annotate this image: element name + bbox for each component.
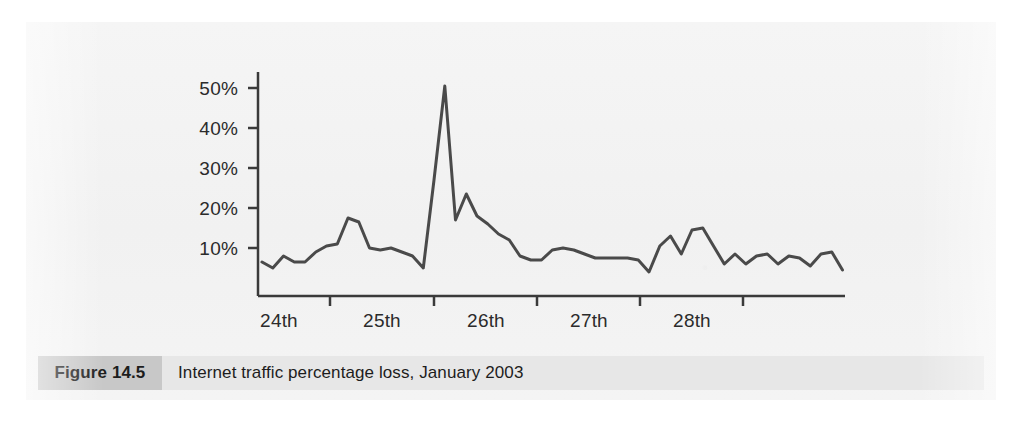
line-chart: 50% 40% 30% 20% 10% 24th 25th 26th 27th … <box>26 22 996 332</box>
x-tick-label-25th: 25th <box>330 310 434 332</box>
x-axis-ticks <box>330 296 743 306</box>
y-axis-ticks <box>248 88 258 248</box>
traffic-loss-line <box>262 86 843 272</box>
figure-number-block: Figure 14.5 <box>38 356 162 390</box>
figure-page: 50% 40% 30% 20% 10% 24th 25th 26th 27th … <box>0 0 1033 426</box>
x-tick-label-24th: 24th <box>227 310 331 332</box>
y-tick-label-40: 40% <box>164 118 238 140</box>
x-tick-label-28th: 28th <box>640 310 744 332</box>
x-tick-label-27th: 27th <box>537 310 641 332</box>
figure-caption-text: Internet traffic percentage loss, Januar… <box>178 356 523 390</box>
x-tick-label-26th: 26th <box>434 310 538 332</box>
y-tick-label-50: 50% <box>164 78 238 100</box>
y-tick-label-20: 20% <box>164 198 238 220</box>
figure-number-text: Figure 14.5 <box>55 363 146 383</box>
scanned-page-surface: 50% 40% 30% 20% 10% 24th 25th 26th 27th … <box>26 22 996 400</box>
y-tick-label-30: 30% <box>164 158 238 180</box>
y-tick-label-10: 10% <box>164 238 238 260</box>
